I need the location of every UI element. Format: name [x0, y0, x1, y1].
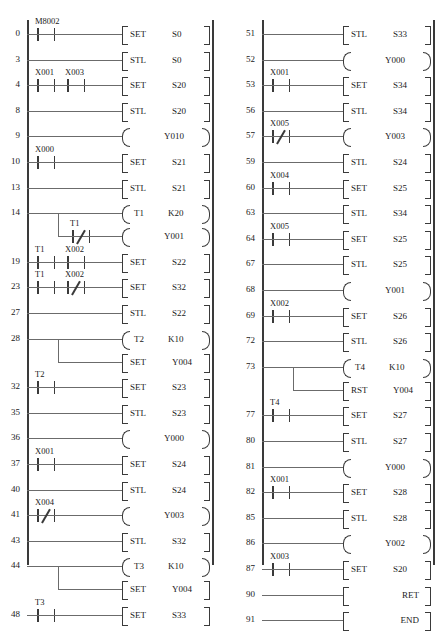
contact-no[interactable] [37, 256, 55, 269]
instruction-block[interactable]: STLS24 [343, 154, 431, 171]
output-coil[interactable]: T1K20 [122, 205, 210, 222]
instruction-bracket-right [425, 407, 431, 426]
step-number: 32 [2, 382, 20, 391]
step-number: 59 [237, 157, 255, 166]
instruction-block[interactable]: STLS25 [343, 256, 431, 273]
output-coil[interactable]: Y000 [343, 52, 431, 69]
instruction-block[interactable]: STLS21 [122, 180, 210, 197]
instruction-block[interactable]: STLS34 [343, 205, 431, 222]
instruction-operator: STL [130, 485, 146, 496]
contact-nc[interactable] [272, 130, 290, 143]
instruction-bracket-left [122, 279, 128, 298]
output-coil[interactable]: Y001 [122, 228, 210, 245]
instruction-bracket-right [204, 254, 210, 273]
contact-no[interactable] [37, 79, 55, 92]
contact-no[interactable] [37, 609, 55, 622]
instruction-bracket-right [204, 581, 210, 600]
instruction-block[interactable]: SETS34 [343, 77, 431, 94]
step-number: 53 [237, 80, 255, 89]
coil-argument: Y000 [385, 55, 405, 66]
contact-no[interactable] [272, 233, 290, 246]
instruction-block[interactable]: STLS28 [343, 510, 431, 527]
instruction-argument: Y004 [393, 385, 413, 396]
contact-no[interactable] [67, 256, 85, 269]
instruction-block[interactable]: STLS0 [122, 52, 210, 69]
output-coil[interactable]: T2K10 [122, 331, 210, 348]
instruction-block[interactable]: SETS20 [343, 561, 431, 578]
instruction-block[interactable]: SETS24 [122, 456, 210, 473]
contact-inner-wire [37, 34, 55, 35]
instruction-block[interactable]: STLS26 [343, 333, 431, 350]
instruction-bracket-right [204, 533, 210, 552]
instruction-block[interactable]: STLS20 [122, 103, 210, 120]
step-number: 10 [2, 157, 20, 166]
instruction-block[interactable]: STLS32 [122, 533, 210, 550]
rung-wire [55, 387, 122, 388]
instruction-block[interactable]: SETS26 [343, 308, 431, 325]
contact-slash [276, 130, 285, 145]
contact-inner-wire [37, 262, 55, 263]
output-coil[interactable]: Y010 [122, 128, 210, 145]
contact-nc[interactable] [67, 281, 85, 294]
step-number: 4 [2, 80, 20, 89]
instruction-block[interactable]: STLS33 [343, 26, 431, 43]
contact-no[interactable] [37, 281, 55, 294]
instruction-block[interactable]: SETS25 [343, 180, 431, 197]
instruction-bracket-left [122, 533, 128, 552]
output-coil[interactable]: Y002 [343, 535, 431, 552]
instruction-operator: SET [130, 459, 146, 470]
instruction-block[interactable]: SETS20 [122, 77, 210, 94]
instruction-block[interactable]: STLS34 [343, 103, 431, 120]
contact-no[interactable] [272, 486, 290, 499]
contact-no[interactable] [37, 28, 55, 41]
output-coil[interactable]: Y003 [343, 128, 431, 145]
contact-nc[interactable] [72, 230, 90, 243]
instruction-block[interactable]: SETS0 [122, 26, 210, 43]
contact-slash [71, 281, 80, 296]
instruction-operator: SET [130, 584, 146, 595]
contact-no[interactable] [37, 458, 55, 471]
rung-wire [27, 615, 37, 616]
instruction-block[interactable]: END [343, 612, 431, 629]
instruction-block[interactable]: SETS32 [122, 279, 210, 296]
contact-no[interactable] [272, 563, 290, 576]
output-coil[interactable]: Y001 [343, 282, 431, 299]
instruction-block[interactable]: SETS28 [343, 484, 431, 501]
instruction-block[interactable]: STLS27 [343, 433, 431, 450]
instruction-block[interactable]: SETS22 [122, 254, 210, 271]
contact-nc[interactable] [37, 509, 55, 522]
power-rail-left [262, 20, 264, 565]
instruction-block[interactable]: SETY004 [122, 581, 210, 598]
instruction-operator: SET [130, 157, 146, 168]
instruction-block[interactable]: STLS24 [122, 482, 210, 499]
instruction-block[interactable]: RSTY004 [343, 382, 431, 399]
rung-wire [27, 387, 37, 388]
contact-inner-wire [272, 85, 290, 86]
rung-wire [27, 136, 122, 137]
output-coil[interactable]: Y000 [343, 459, 431, 476]
contact-no[interactable] [37, 156, 55, 169]
instruction-block[interactable]: STLS23 [122, 405, 210, 422]
instruction-operator: STL [130, 55, 146, 66]
contact-no[interactable] [67, 79, 85, 92]
output-coil[interactable]: T3K10 [122, 558, 210, 575]
contact-no[interactable] [37, 381, 55, 394]
instruction-bracket-right [204, 103, 210, 122]
instruction-bracket-right [425, 333, 431, 352]
contact-no[interactable] [272, 409, 290, 422]
instruction-argument: S26 [393, 336, 407, 347]
output-coil[interactable]: T4K10 [343, 359, 431, 376]
contact-no[interactable] [272, 79, 290, 92]
contact-no[interactable] [272, 310, 290, 323]
instruction-block[interactable]: SETS27 [343, 407, 431, 424]
contact-no[interactable] [272, 182, 290, 195]
instruction-block[interactable]: SETY004 [122, 354, 210, 371]
instruction-block[interactable]: RET [343, 587, 431, 604]
instruction-block[interactable]: SETS21 [122, 154, 210, 171]
instruction-block[interactable]: SETS33 [122, 607, 210, 624]
instruction-block[interactable]: SETS25 [343, 231, 431, 248]
instruction-block[interactable]: SETS23 [122, 379, 210, 396]
instruction-block[interactable]: STLS22 [122, 305, 210, 322]
output-coil[interactable]: Y003 [122, 507, 210, 524]
output-coil[interactable]: Y000 [122, 430, 210, 447]
